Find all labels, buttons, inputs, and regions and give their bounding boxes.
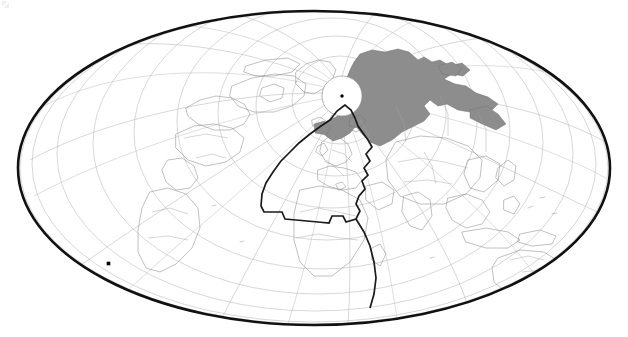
point-marker[interactable] bbox=[107, 262, 111, 266]
map-canvas[interactable] bbox=[0, 0, 628, 337]
north-pole-dot bbox=[340, 94, 343, 97]
map-background bbox=[0, 0, 628, 337]
corner-artifact bbox=[2, 1, 9, 8]
world-map-figure bbox=[0, 0, 628, 337]
